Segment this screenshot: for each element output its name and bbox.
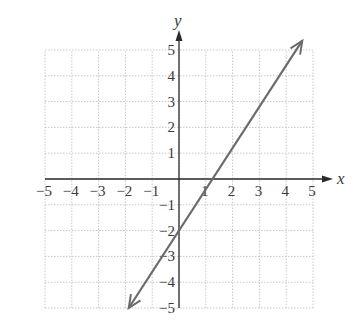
x-tick-label: −5 (36, 183, 52, 199)
x-tick-label: −4 (63, 183, 79, 199)
x-tick-label: 4 (281, 183, 289, 199)
x-tick-label: 3 (255, 183, 263, 199)
arrowhead-upper-icon (291, 41, 303, 55)
y-tick-label: 5 (168, 42, 176, 58)
x-tick-label: 2 (228, 183, 236, 199)
y-tick-label: −2 (159, 223, 175, 239)
x-axis-label: x (336, 169, 345, 188)
y-tick-label: 3 (168, 94, 176, 110)
y-tick-label: −5 (159, 300, 175, 316)
coordinate-plane: −5−4−3−2−112345−5−4−3−2−112345 x y (0, 0, 358, 328)
plotted-line (129, 41, 303, 308)
y-tick-label: −4 (159, 274, 175, 290)
arrowhead-lower-icon (129, 294, 141, 308)
x-axis-arrow-icon (322, 176, 333, 183)
x-tick-label: 5 (308, 183, 316, 199)
y-tick-label: −1 (159, 197, 175, 213)
series-line (129, 41, 303, 308)
y-axis-arrow-icon (176, 30, 183, 41)
x-tick-label: −1 (143, 183, 159, 199)
y-tick-label: 1 (168, 145, 176, 161)
y-tick-label: 4 (168, 68, 176, 84)
axes (45, 30, 333, 308)
y-axis-label: y (172, 11, 182, 30)
x-tick-label: −3 (90, 183, 106, 199)
x-tick-label: −2 (116, 183, 132, 199)
y-tick-label: 2 (168, 119, 176, 135)
